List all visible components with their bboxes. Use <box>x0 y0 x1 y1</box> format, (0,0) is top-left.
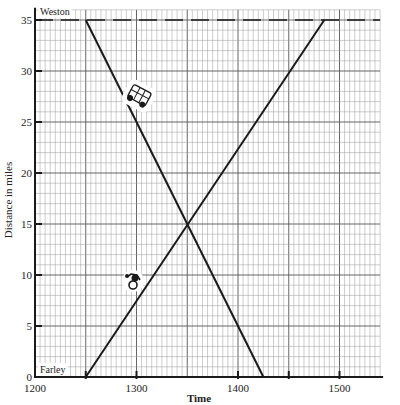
bicycle-icon <box>122 270 144 292</box>
x-tick-label: 1300 <box>126 382 149 394</box>
y-axis-title: Distance in miles <box>2 162 14 238</box>
x-tick-label: 1400 <box>227 382 250 394</box>
y-tick-label: 35 <box>21 14 33 26</box>
y-tick-label: 30 <box>21 65 33 77</box>
y-tick-label: 15 <box>21 218 33 230</box>
farley-label: Farley <box>40 364 66 375</box>
distance-time-graph: 051015202530351200130014001500 Weston Fa… <box>0 0 400 405</box>
y-tick-label: 20 <box>21 167 33 179</box>
y-tick-label: 5 <box>27 320 33 332</box>
x-axis-title: Time <box>187 392 211 404</box>
car-journey-line <box>86 20 264 377</box>
car-icon <box>122 80 155 112</box>
y-tick-label: 25 <box>21 116 33 128</box>
y-tick-label: 10 <box>21 269 33 281</box>
x-tick-label: 1500 <box>329 382 352 394</box>
weston-label: Weston <box>40 6 70 17</box>
x-tick-label: 1200 <box>24 382 47 394</box>
